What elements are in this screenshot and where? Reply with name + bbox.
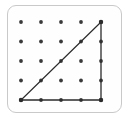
pin-r0-c0[interactable]	[19, 20, 23, 24]
pin-r3-c3[interactable]	[79, 79, 83, 83]
triangle-shape-layer	[21, 22, 101, 100]
pin-r1-c0[interactable]	[19, 40, 23, 44]
triangle-vertex-bottom-right[interactable]	[99, 98, 103, 102]
triangle-vertex-bottom-left[interactable]	[19, 98, 23, 102]
right-triangle-shape[interactable]	[21, 22, 101, 100]
pin-r3-c2[interactable]	[59, 79, 63, 83]
pin-r2-c1[interactable]	[39, 59, 43, 63]
pin-r0-c3[interactable]	[79, 20, 83, 24]
pin-r1-c2[interactable]	[59, 40, 63, 44]
pin-r2-c3[interactable]	[79, 59, 83, 63]
geoboard-figure	[0, 0, 131, 121]
board-canvas	[0, 0, 131, 121]
pin-r3-c0[interactable]	[19, 79, 23, 83]
pin-r2-c0[interactable]	[19, 59, 23, 63]
triangle-vertex-top-right[interactable]	[99, 20, 103, 24]
pin-r0-c1[interactable]	[39, 20, 43, 24]
pin-r0-c2[interactable]	[59, 20, 63, 24]
pin-r1-c1[interactable]	[39, 40, 43, 44]
